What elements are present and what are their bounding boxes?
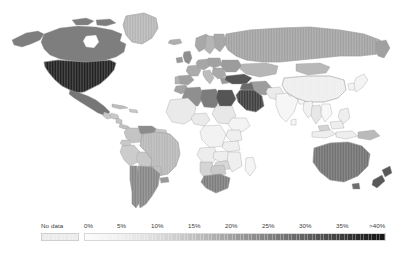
country-indonesia-3[interactable]: [330, 121, 344, 129]
legend-color-bars: [41, 233, 386, 241]
legend-label-tick-2: 10%: [151, 222, 164, 230]
country-ireland[interactable]: [176, 57, 183, 63]
legend-label-no-data: No data: [41, 222, 63, 230]
legend-label-tick-5: 25%: [262, 222, 275, 230]
map-canvas[interactable]: [0, 0, 401, 215]
legend-label-tick-7: 35%: [336, 222, 349, 230]
country-portugal[interactable]: [175, 76, 180, 84]
legend-label-tick-0: 0%: [84, 222, 93, 230]
country-south-korea[interactable]: [348, 83, 355, 90]
legend-label-tick-8: >40%: [369, 222, 385, 230]
legend-label-tick-3: 15%: [188, 222, 201, 230]
country-canada[interactable]: [41, 26, 126, 62]
map-legend: No data 0% 5% 10% 15% 20% 25% 30% 35% >4…: [0, 215, 401, 262]
country-uruguay[interactable]: [160, 177, 169, 183]
country-tasmania[interactable]: [352, 183, 360, 189]
legend-gradient-bar[interactable]: [84, 233, 386, 241]
legend-label-tick-4: 20%: [225, 222, 238, 230]
world-map-svg[interactable]: [0, 0, 401, 215]
legend-label-tick-1: 5%: [117, 222, 126, 230]
legend-tick-labels: No data 0% 5% 10% 15% 20% 25% 30% 35% >4…: [41, 222, 386, 233]
country-sri-lanka[interactable]: [291, 119, 296, 125]
legend-no-data-swatch[interactable]: [41, 233, 79, 241]
legend-inner: No data 0% 5% 10% 15% 20% 25% 30% 35% >4…: [41, 222, 386, 246]
world-choropleth-figure: No data 0% 5% 10% 15% 20% 25% 30% 35% >4…: [0, 0, 401, 262]
legend-label-tick-6: 30%: [299, 222, 312, 230]
